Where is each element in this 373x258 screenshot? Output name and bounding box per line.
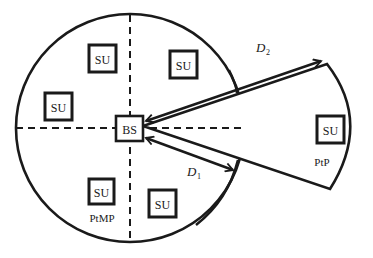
base-station[interactable]: BS — [116, 116, 143, 141]
svg-text:D: D — [186, 164, 197, 179]
subscriber-unit[interactable]: SU — [149, 190, 176, 217]
subscriber-unit-label: SU — [51, 101, 67, 115]
subscriber-unit[interactable]: SU — [89, 45, 116, 72]
d1-label: D 1 — [186, 164, 201, 181]
ptmp-region-label: PtMP — [89, 212, 114, 224]
subscriber-unit-label: SU — [176, 59, 192, 73]
subscriber-unit[interactable]: SU — [170, 51, 197, 78]
base-station-label: BS — [122, 123, 137, 137]
subscriber-unit-ptp[interactable]: SU — [317, 116, 344, 143]
subscriber-unit-label: SU — [95, 53, 111, 67]
svg-text:1: 1 — [197, 172, 201, 181]
subscriber-unit-label: SU — [155, 198, 171, 212]
diagram-canvas: BS SU SU SU SU SU SU PtMP PtP D 2 D 1 — [0, 0, 373, 258]
subscriber-unit-label: SU — [94, 186, 110, 200]
subscriber-unit[interactable]: SU — [89, 179, 114, 204]
subscriber-unit-label: SU — [323, 124, 339, 138]
svg-text:D: D — [255, 40, 266, 55]
d2-label: D 2 — [255, 40, 270, 57]
ptp-region-label: PtP — [314, 156, 329, 168]
subscriber-unit[interactable]: SU — [45, 93, 72, 120]
svg-text:2: 2 — [266, 48, 270, 57]
